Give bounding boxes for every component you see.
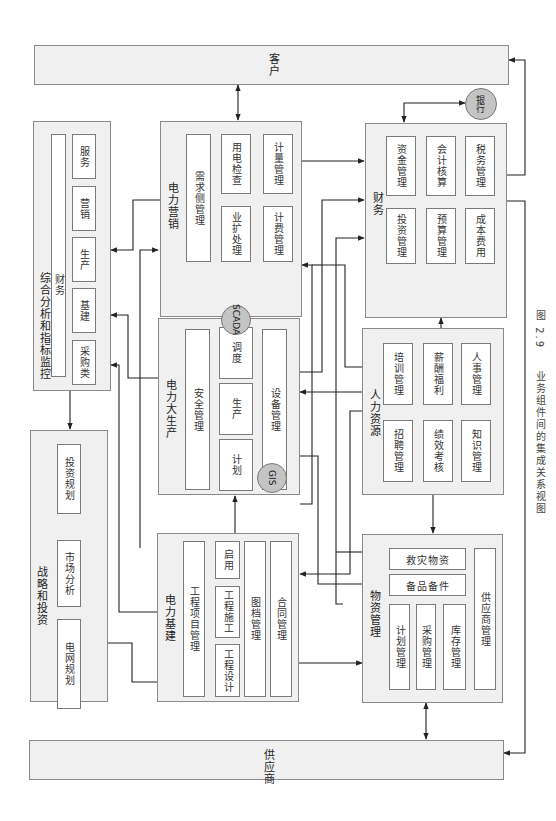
scada-node: SCADA [221,305,251,335]
construction-works: 工程施工 [215,586,240,638]
figure-title: 业务组件间的集成关系视图 [534,371,545,515]
figure-number: 图 2.9 [534,310,545,349]
personnel-management: 人事管理 [461,343,491,405]
planning: 计划 [219,439,253,491]
production-module: 电力大生产 安全管理 调度 生产 计划 设备管理 SCADA GIS [158,318,300,495]
finance-module: 财务 资金管理 会计核算 税务管理 投资管理 预算管理 成本费用 [365,123,507,318]
disaster-relief-materials: 救灾物资 [389,548,466,570]
strategy-title: 战略和投资 [33,566,49,626]
finance-title: 财务 [369,192,385,216]
recruitment-management: 招聘管理 [383,420,413,482]
strategy-module: 战略和投资 投资规划 市场分析 电网规划 [30,430,108,702]
strategy-market-analysis: 市场分析 [57,540,81,607]
hr-title: 人力资源 [366,389,382,437]
procurement-management: 采购管理 [416,604,436,690]
hr-module: 人力资源 培训管理 薪酬福利 人事管理 招聘管理 绩效考核 知识管理 [362,328,504,495]
supplier-box: 供应商 [29,740,504,780]
investment-management: 投资管理 [386,208,416,264]
accounting: 会计核算 [426,136,456,196]
materials-title: 物资管理 [366,590,382,638]
analysis-construction: 基建 [72,288,96,333]
project-management: 工程项目管理 [183,541,205,697]
supplier-label: 供应商 [260,749,276,785]
budget-management: 预算管理 [426,208,456,264]
spare-parts: 备品备件 [389,574,466,596]
construction-title: 电力基建 [161,594,177,642]
figure-caption: 图 2.9 业务组件间的集成关系视图 [532,310,547,515]
knowledge-management: 知识管理 [461,420,491,482]
demand-side-management: 需求侧管理 [186,134,211,262]
commissioning: 启用 [215,541,240,579]
materials-plan-management: 计划管理 [389,604,410,690]
metering-management: 计量管理 [263,134,293,194]
inventory-management: 库存管理 [443,604,466,690]
analysis-service: 服务 [72,134,96,179]
bank-node: 银行 [465,88,497,120]
compensation-benefits: 薪酬福利 [423,343,453,405]
analysis-module: 综合分析和指标监控 财务 服务 营销 生产 基建 采购类 [33,121,111,391]
drawings-archive: 图档管理 [244,541,266,697]
safety-management: 安全管理 [185,329,210,490]
training-management: 培训管理 [383,343,413,405]
billing-management: 计费管理 [263,206,293,262]
bank-label: 银行 [475,95,488,113]
business-expansion: 业扩处理 [221,206,251,262]
supplier-management: 供应商管理 [474,548,496,690]
production-title: 电力大生产 [162,379,178,439]
contract-management: 合同管理 [270,541,292,697]
marketing-title: 电力营销 [164,182,180,230]
strategy-investment-planning: 投资规划 [57,444,81,514]
analysis-marketing: 营销 [72,186,96,231]
customer-label: 客户 [265,53,281,77]
analysis-procurement: 采购类 [72,340,96,385]
power-inspection: 用电检查 [221,134,251,194]
analysis-title: 综合分析和指标监控 [36,272,52,380]
analysis-production: 生产 [72,237,96,282]
fund-management: 资金管理 [386,136,416,196]
marketing-module: 电力营销 需求侧管理 用电检查 业扩处理 计量管理 计费管理 [160,121,302,317]
analysis-finance: 财务 [51,134,66,377]
materials-module: 物资管理 救灾物资 备品备件 计划管理 采购管理 库存管理 供应商管理 [362,534,503,703]
engineering-design: 工程设计 [215,644,240,697]
cost-expenses: 成本费用 [465,208,495,264]
gis-node: GIS [257,463,287,493]
tax-management: 税务管理 [465,136,495,196]
construction-module: 电力基建 工程项目管理 启用 工程施工 工程设计 图档管理 合同管理 [157,533,299,702]
customer-box: 客户 [34,45,509,85]
performance-appraisal: 绩效考核 [423,420,453,482]
production-ops: 生产 [219,383,253,435]
strategy-grid-planning: 电网规划 [57,619,81,709]
